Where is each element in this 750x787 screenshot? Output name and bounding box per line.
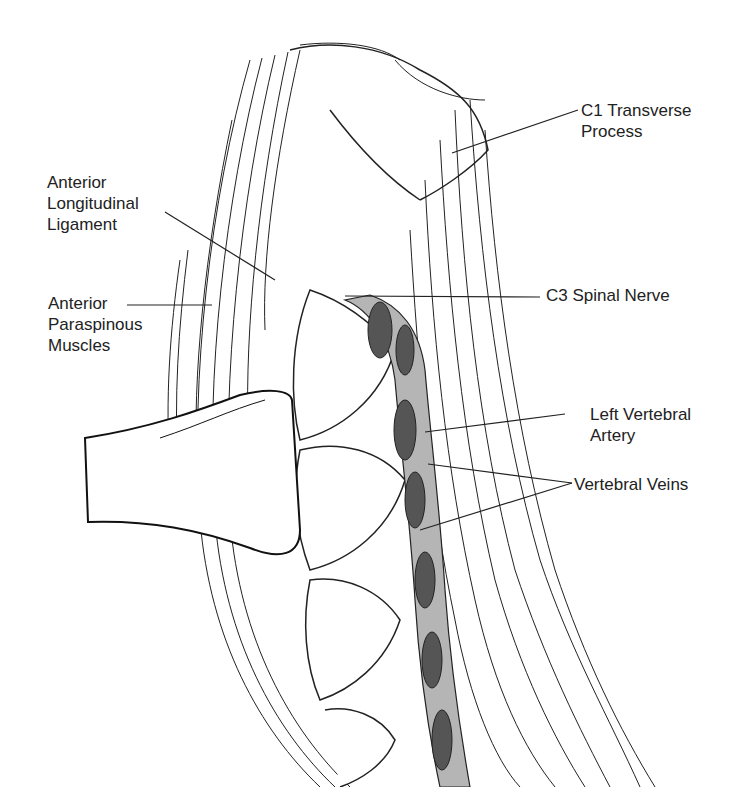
label-anterior-paraspinous-muscles: Anterior Paraspinous Muscles: [48, 293, 143, 356]
label-left-vertebral-artery: Left Vertebral Artery: [590, 404, 691, 446]
c1-transverse-process-shape: [290, 45, 488, 200]
label-anterior-longitudinal-ligament: Anterior Longitudinal Ligament: [47, 172, 139, 235]
vertebral-bodies: [293, 290, 405, 787]
label-c3-spinal-nerve: C3 Spinal Nerve: [546, 285, 670, 306]
retractor: [85, 391, 300, 554]
label-vertebral-veins: Vertebral Veins: [574, 474, 688, 495]
label-c1-transverse-process: C1 Transverse Process: [581, 100, 692, 142]
